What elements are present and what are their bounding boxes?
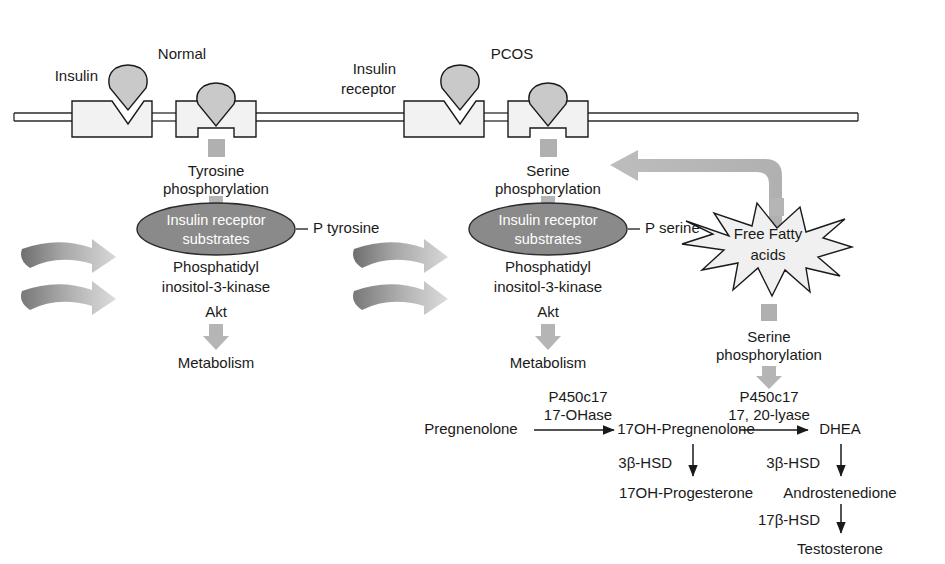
insulin-receptor-label-line2: receptor <box>341 80 396 97</box>
enzyme-3b-hsd-right: 3β-HSD <box>766 454 820 471</box>
substrates-oval-pcos-line1: Insulin receptor <box>498 212 597 228</box>
arrow-to-p450c17 <box>756 366 782 389</box>
serine-phospho-label-line2: phosphorylation <box>495 180 601 197</box>
phosphatidyl-line1: Phosphatidyl <box>173 258 259 275</box>
ffa-serine-label-line1: Serine <box>747 328 790 345</box>
ffa-serine-label-line2: phosphorylation <box>716 346 822 363</box>
steroidogenesis-pathway: Pregnenolone P450c17 17-OHase 17OH-Pregn… <box>424 388 896 557</box>
insulin-label: Insulin <box>55 67 98 84</box>
tyrosine-phospho-label-line1: Tyrosine <box>188 162 245 179</box>
normal-panel: Normal Insulin Tyrosine phosphorylation <box>21 45 379 371</box>
tyrosine-phospho-label-line2: phosphorylation <box>163 180 269 197</box>
insulin-receptor-substrates-pcos: Insulin receptor substrates <box>469 203 627 255</box>
insulin-ligand-pcos-1 <box>441 65 479 110</box>
insulin-receptor-substrates-normal: Insulin receptor substrates <box>137 203 295 255</box>
enzyme-3b-hsd-left: 3β-HSD <box>618 454 672 471</box>
free-fatty-acids-branch: Free Fatty acids Serine phosphorylation <box>610 150 852 389</box>
diagram-canvas: Normal Insulin Tyrosine phosphorylation <box>0 0 945 564</box>
arrow-to-metabolism-pcos <box>535 324 561 350</box>
ffa-serine-phospho-square <box>761 304 777 321</box>
spiral-arrow-normal-lower <box>21 281 116 315</box>
metabolism-label-pcos: Metabolism <box>510 354 587 371</box>
enzyme-p450c17-ohase-line1: P450c17 <box>548 388 607 405</box>
akt-label-pcos: Akt <box>537 303 560 320</box>
phosphatidyl-pcos-line1: Phosphatidyl <box>505 258 591 275</box>
metabolite-pregnenolone: Pregnenolone <box>424 420 517 437</box>
enzyme-p450c17-lyase-line1: P450c17 <box>739 388 798 405</box>
inositol-3-kinase-pcos-line2: inositol-3-kinase <box>494 278 602 295</box>
insulin-ligand-normal-1 <box>109 65 147 110</box>
ffa-label-line2: acids <box>750 246 785 263</box>
ffa-label-line1: Free Fatty <box>734 225 803 242</box>
p-tyrosine-label: P tyrosine <box>313 219 379 236</box>
substrates-oval-line2: substrates <box>183 231 250 247</box>
spiral-arrow-normal-upper <box>21 239 116 273</box>
serine-phospho-label-line1: Serine <box>526 162 569 179</box>
metabolite-androstenedione: Androstenedione <box>783 484 896 501</box>
p-serine-label: P serine <box>645 219 700 236</box>
metabolite-testosterone: Testosterone <box>797 540 883 557</box>
inositol-3-kinase-line2: inositol-3-kinase <box>162 278 270 295</box>
insulin-receptor-unbound-pcos <box>404 101 484 137</box>
enzyme-17b-hsd: 17β-HSD <box>758 511 820 528</box>
spiral-arrow-pcos-lower <box>353 281 448 315</box>
normal-heading: Normal <box>158 45 206 62</box>
free-fatty-acids-burst: Free Fatty acids <box>682 203 852 296</box>
metabolite-17oh-progesterone: 17OH-Progesterone <box>619 484 753 501</box>
insulin-receptor-unbound-normal <box>72 101 152 137</box>
enzyme-17-ohase-line2: 17-OHase <box>544 406 612 423</box>
metabolite-dhea: DHEA <box>819 420 861 437</box>
spiral-arrow-pcos-upper <box>353 239 448 273</box>
tyrosine-phospho-square <box>208 139 225 157</box>
serine-phospho-square <box>540 139 557 157</box>
arrow-to-metabolism-normal <box>203 324 229 350</box>
enzyme-17-20-lyase-line2: 17, 20-lyase <box>728 406 810 423</box>
akt-label-normal: Akt <box>205 303 228 320</box>
substrates-oval-pcos-line2: substrates <box>515 231 582 247</box>
ffa-top-block <box>770 198 784 216</box>
pcos-insulin-signalling-diagram: Normal Insulin Tyrosine phosphorylation <box>0 0 945 564</box>
substrates-oval-line1: Insulin receptor <box>166 212 265 228</box>
metabolism-label-normal: Metabolism <box>178 354 255 371</box>
pcos-heading: PCOS <box>491 45 534 62</box>
insulin-receptor-label-line1: Insulin <box>353 60 396 77</box>
pcos-panel: PCOS Insulin receptor Serine phosphoryla… <box>341 45 700 371</box>
